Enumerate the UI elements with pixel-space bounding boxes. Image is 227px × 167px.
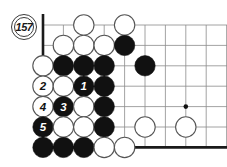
stone-move-label: 2 bbox=[39, 80, 47, 92]
black-stone bbox=[33, 137, 53, 157]
white-stone bbox=[33, 56, 53, 76]
white-stone bbox=[94, 137, 114, 157]
white-stone bbox=[53, 35, 73, 55]
black-stone bbox=[94, 56, 114, 76]
black-stone bbox=[53, 56, 73, 76]
white-stone bbox=[74, 35, 94, 55]
white-stone bbox=[94, 35, 114, 55]
black-stone bbox=[53, 137, 73, 157]
white-stone bbox=[74, 15, 94, 35]
go-board-diagram: 21435 157 bbox=[0, 0, 227, 167]
star-points bbox=[184, 104, 189, 109]
black-stone bbox=[135, 56, 155, 76]
stone-move-label: 5 bbox=[40, 121, 47, 133]
white-stone bbox=[74, 96, 94, 116]
black-stone bbox=[74, 137, 94, 157]
black-stone bbox=[94, 96, 114, 116]
star-point bbox=[184, 104, 189, 109]
white-stone bbox=[53, 76, 73, 96]
white-stone bbox=[135, 117, 155, 137]
white-stone bbox=[53, 117, 73, 137]
white-stone bbox=[176, 117, 196, 137]
move-number-label: 157 bbox=[16, 22, 33, 33]
white-stone bbox=[74, 117, 94, 137]
stone-move-label: 4 bbox=[39, 101, 47, 113]
black-stone bbox=[94, 76, 114, 96]
move-number-badge: 157 bbox=[11, 14, 37, 40]
stone-move-label: 1 bbox=[81, 80, 87, 92]
black-stone bbox=[114, 35, 134, 55]
white-stone bbox=[114, 15, 134, 35]
stone-move-label: 3 bbox=[60, 101, 67, 113]
black-stone bbox=[74, 56, 94, 76]
black-stone bbox=[94, 117, 114, 137]
white-stone bbox=[114, 137, 134, 157]
